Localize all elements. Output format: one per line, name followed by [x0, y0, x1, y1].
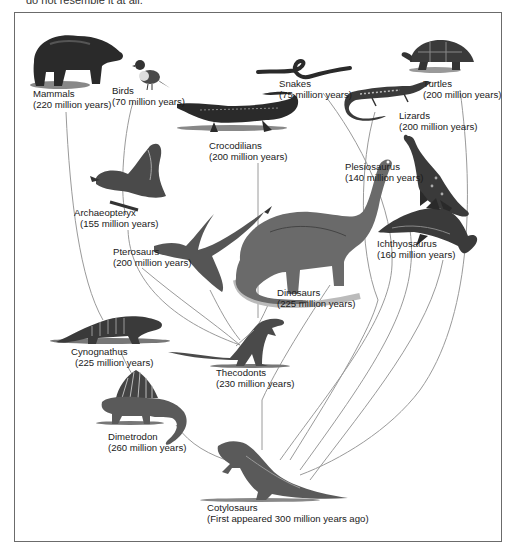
node-name: Crocodilians: [209, 140, 287, 151]
node-years: (75 million years): [279, 89, 352, 100]
node-name: Lizards: [399, 110, 477, 121]
node-dimetrodon: Dimetrodon (260 million years): [108, 431, 186, 453]
line-pterosaurs: [142, 268, 240, 345]
node-years: (200 million years): [423, 89, 501, 100]
snake-icon: [258, 61, 350, 77]
node-years: (260 million years): [108, 442, 186, 453]
node-name: Cotylosaurs: [207, 502, 369, 513]
node-name: Ichthyosaurus: [377, 238, 455, 249]
node-name: Thecodonts: [216, 367, 294, 378]
node-dinosaurs: Dinosaurs (225 million years): [277, 287, 355, 309]
node-name: Dimetrodon: [108, 431, 186, 442]
node-name: Cynognathus: [71, 346, 153, 357]
node-name: Archaeopteryx: [74, 207, 158, 218]
node-ichthyosaurus: Ichthyosaurus (160 million years): [377, 238, 455, 260]
node-name: Dinosaurs: [277, 287, 355, 298]
node-cynognathus: Cynognathus (225 million years): [71, 346, 153, 368]
node-snakes: Snakes (75 million years): [279, 78, 352, 100]
node-years: (160 million years): [377, 249, 455, 260]
node-years: (200 million years): [399, 121, 477, 132]
node-name: Snakes: [279, 78, 352, 89]
archaeopteryx-icon: [90, 144, 166, 210]
node-turtles: Turtles (200 million years): [423, 78, 501, 100]
node-lizards: Lizards (200 million years): [399, 110, 477, 132]
node-years: (200 million years): [113, 257, 191, 268]
line-turtles: [300, 90, 467, 475]
node-name: Pterosaurs: [113, 246, 191, 257]
node-years: (200 million years): [209, 151, 287, 162]
node-years: (140 million years): [345, 172, 423, 183]
node-years: (225 million years): [71, 357, 153, 368]
node-years: (230 million years): [216, 378, 294, 389]
bear-icon: [30, 35, 123, 89]
node-years: (70 million years): [112, 96, 185, 107]
node-years: (220 million years): [33, 99, 111, 110]
node-archaeopteryx: Archaeopteryx (155 million years): [74, 207, 158, 229]
node-name: Turtles: [423, 78, 501, 89]
cynognathus-icon: [50, 316, 170, 344]
cotylosaur-icon: [200, 441, 348, 502]
node-birds: Birds (70 million years): [112, 85, 185, 107]
node-cotylosaurs: Cotylosaurs (First appeared 300 million …: [207, 502, 369, 524]
node-name: Plesiosaurus: [345, 161, 423, 172]
node-crocodilians: Crocodilians (200 million years): [209, 140, 287, 162]
line-birds: [123, 102, 133, 215]
node-years: (First appeared 300 million years ago): [207, 513, 369, 524]
node-mammals: Mammals (220 million years): [33, 88, 111, 110]
node-name: Mammals: [33, 88, 111, 99]
node-name: Birds: [112, 85, 185, 96]
turtle-icon: [402, 40, 474, 73]
thecodont-icon: [168, 319, 290, 368]
node-pterosaurs: Pterosaurs (200 million years): [113, 246, 191, 268]
node-plesiosaurus: Plesiosaurus (140 million years): [345, 161, 423, 183]
node-years: (225 million years): [277, 298, 355, 309]
node-thecodonts: Thecodonts (230 million years): [216, 367, 294, 389]
node-years: (155 million years): [74, 218, 158, 229]
